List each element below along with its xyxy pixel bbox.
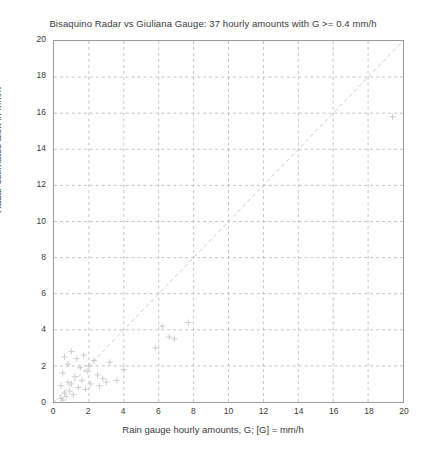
data-point [58, 383, 64, 389]
data-point [75, 384, 81, 390]
data-point [81, 352, 87, 358]
data-markers [54, 41, 403, 402]
data-point [82, 386, 88, 392]
y-tick-label: 12 [16, 179, 46, 189]
data-point [74, 356, 80, 362]
x-tick-label: 10 [217, 406, 241, 416]
data-point [65, 361, 71, 367]
y-tick-label: 8 [16, 252, 46, 262]
data-point [114, 377, 120, 383]
x-tick-label: 6 [146, 406, 170, 416]
y-tick-label: 18 [16, 70, 46, 80]
plot-area [53, 40, 404, 403]
y-tick-label: 2 [16, 361, 46, 371]
scatter-plot-figure: Bisaquino Radar vs Giuliana Gauge: 37 ho… [0, 0, 426, 453]
data-point [84, 368, 90, 374]
data-point [159, 323, 165, 329]
x-axis-label-text: Rain gauge hourly amounts, G; [G] = mm/h [0, 424, 426, 435]
y-tick-label: 4 [16, 324, 46, 334]
data-point [61, 354, 67, 360]
x-tick-label: 18 [357, 406, 381, 416]
y-tick-label: 0 [16, 397, 46, 407]
data-point [70, 392, 76, 398]
data-point [91, 357, 97, 363]
x-tick-label: 2 [76, 406, 100, 416]
x-tick-label: 20 [392, 406, 416, 416]
data-point [79, 377, 85, 383]
data-point [107, 359, 113, 365]
data-point [103, 379, 109, 385]
x-tick-label: 0 [41, 406, 65, 416]
data-point [185, 319, 191, 325]
x-tick-label: 4 [111, 406, 135, 416]
x-tick-label: 8 [181, 406, 205, 416]
data-point [152, 345, 158, 351]
data-point [60, 370, 66, 376]
page-title: Bisaquino Radar vs Giuliana Gauge: 37 ho… [0, 18, 426, 29]
y-tick-label: 14 [16, 143, 46, 153]
y-tick-label: 6 [16, 288, 46, 298]
y-tick-label: 10 [16, 216, 46, 226]
data-point [100, 375, 106, 381]
data-point [95, 372, 101, 378]
y-axis-label-text: Radar estimates aloft in mm/h [0, 70, 3, 230]
x-tick-label: 14 [287, 406, 311, 416]
data-point [88, 381, 94, 387]
x-tick-label: 16 [322, 406, 346, 416]
data-point [86, 363, 92, 369]
data-point [77, 365, 83, 371]
y-tick-label: 16 [16, 107, 46, 117]
y-tick-label: 20 [16, 34, 46, 44]
x-tick-label: 12 [252, 406, 276, 416]
data-point [72, 374, 78, 380]
data-point [121, 366, 127, 372]
data-point [68, 348, 74, 354]
data-point [389, 114, 395, 120]
data-point [96, 383, 102, 389]
